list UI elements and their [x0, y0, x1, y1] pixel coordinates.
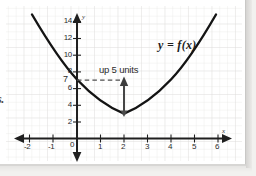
x-tick-label-6: 6: [215, 142, 219, 151]
x-tick-label-minus1: -1: [48, 142, 55, 151]
x-tick-label-minus2: -2: [24, 142, 31, 151]
y-tick-label-12: 12: [58, 33, 72, 42]
x-tick-label-0: 0: [70, 140, 74, 149]
x-tick-label-4: 4: [168, 142, 172, 151]
paper-shadow: [0, 166, 252, 172]
x-axis-name: x: [222, 127, 225, 135]
function-label: y = f(x): [158, 38, 197, 53]
screenshot-root: s.: [0, 0, 256, 176]
y-tick-label-14: 14: [58, 16, 72, 25]
y-value-label-7: 7: [63, 74, 68, 84]
x-tick-label-2: 2: [121, 142, 125, 151]
y-tick-label-6: 6: [58, 83, 72, 92]
x-tick-label-5: 5: [192, 142, 196, 151]
x-tick-label-1: 1: [98, 142, 102, 151]
x-tick-label-3: 3: [145, 142, 149, 151]
up-5-units-label: up 5 units: [99, 64, 138, 75]
y-axis-name: y: [82, 13, 85, 21]
y-tick-label-10: 10: [58, 50, 72, 59]
y-tick-label-2: 2: [58, 117, 72, 126]
y-tick-label-4: 4: [58, 100, 72, 109]
